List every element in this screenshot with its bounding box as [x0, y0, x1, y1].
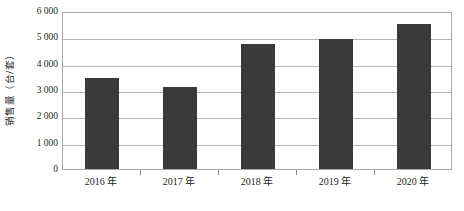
y-axis-title-label: 销售量（台/套）	[5, 49, 15, 125]
bar	[241, 44, 275, 169]
bar-chart-figure: 销售量（台/套） 01 0002 0003 0004 0005 0006 000…	[0, 0, 464, 211]
bar	[85, 78, 119, 169]
y-axis-tick-labels: 01 0002 0003 0004 0005 0006 000	[18, 12, 62, 170]
x-axis-tick-mark	[296, 170, 297, 175]
x-axis-tick-label: 2018 年	[241, 177, 274, 187]
y-axis-tick-label: 3 000	[37, 86, 58, 96]
x-axis-tick-label: 2019 年	[319, 177, 352, 187]
bar	[319, 39, 353, 169]
y-axis-tick-label: 2 000	[37, 113, 58, 123]
bar	[163, 87, 197, 169]
y-axis-tick-label: 6 000	[37, 7, 58, 17]
x-axis-tick-label: 2016 年	[85, 177, 118, 187]
y-axis-title: 销售量（台/套）	[0, 0, 20, 175]
x-axis-tick-labels: 2016 年2017 年2018 年2019 年2020 年	[62, 177, 452, 197]
y-axis-tick-label: 5 000	[37, 34, 58, 44]
bars-layer	[63, 13, 451, 169]
plot-area	[62, 12, 452, 170]
y-axis-tick-label: 0	[53, 165, 58, 175]
x-axis-tick-mark	[140, 170, 141, 175]
y-axis-tick-label: 4 000	[37, 60, 58, 70]
x-axis-tick-label: 2020 年	[397, 177, 430, 187]
x-axis-tick-mark	[374, 170, 375, 175]
y-axis-tick-label: 1 000	[37, 139, 58, 149]
x-axis-tick-label: 2017 年	[163, 177, 196, 187]
x-axis-tick-mark	[218, 170, 219, 175]
bar	[397, 24, 431, 169]
